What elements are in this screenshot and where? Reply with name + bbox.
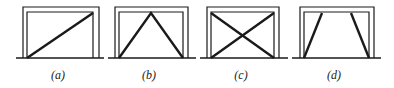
diagonal-brace-a [27, 13, 93, 58]
frame-inner-b [119, 12, 183, 58]
panel-label-d: (d) [314, 68, 354, 83]
frame-b [108, 7, 196, 58]
inverted-v-brace-b [119, 13, 183, 58]
frame-c [200, 7, 288, 58]
knee-brace-right-d [351, 13, 369, 58]
frame-a [16, 7, 104, 58]
panel-label-a: (a) [38, 68, 78, 83]
panel-label-b: (b) [129, 68, 169, 83]
frame-outer-d [300, 7, 374, 58]
frame-outer-a [23, 7, 99, 58]
frame-d [292, 7, 381, 58]
knee-brace-left-d [304, 13, 322, 58]
panel-label-c: (c) [221, 68, 261, 83]
frame-outer-c [207, 7, 279, 58]
